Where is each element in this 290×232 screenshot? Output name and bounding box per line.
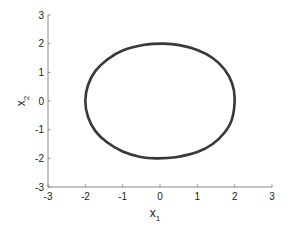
x-axis-label: x1 — [150, 206, 161, 223]
phase-plot: -3-2-10123 -3-2-10123 x1 x2 — [0, 0, 290, 232]
plot-series — [85, 44, 234, 159]
y-tick-label: 0 — [38, 96, 44, 107]
x-tick-label: 1 — [195, 191, 201, 202]
x-tick-label: -2 — [81, 191, 90, 202]
x-tick-label: -1 — [118, 191, 127, 202]
x-tick-label: 3 — [269, 191, 275, 202]
chart-figure: -3-2-10123 -3-2-10123 x1 x2 — [0, 0, 290, 232]
y-tick-label: 2 — [38, 38, 44, 49]
y-tick-label: 3 — [38, 10, 44, 21]
y-tick-label: -1 — [35, 124, 44, 135]
trajectory-curve — [85, 44, 234, 159]
axes — [48, 15, 272, 187]
y-tick-label: -2 — [35, 153, 44, 164]
x-tick-label: 0 — [157, 191, 163, 202]
y-axis-label: x2 — [14, 95, 31, 106]
x-tick-label: -3 — [44, 191, 53, 202]
y-tick-label: -3 — [35, 182, 44, 193]
x-tick-label: 2 — [232, 191, 238, 202]
trajectory-curve-highlight — [85, 44, 234, 159]
y-tick-label: 1 — [38, 67, 44, 78]
